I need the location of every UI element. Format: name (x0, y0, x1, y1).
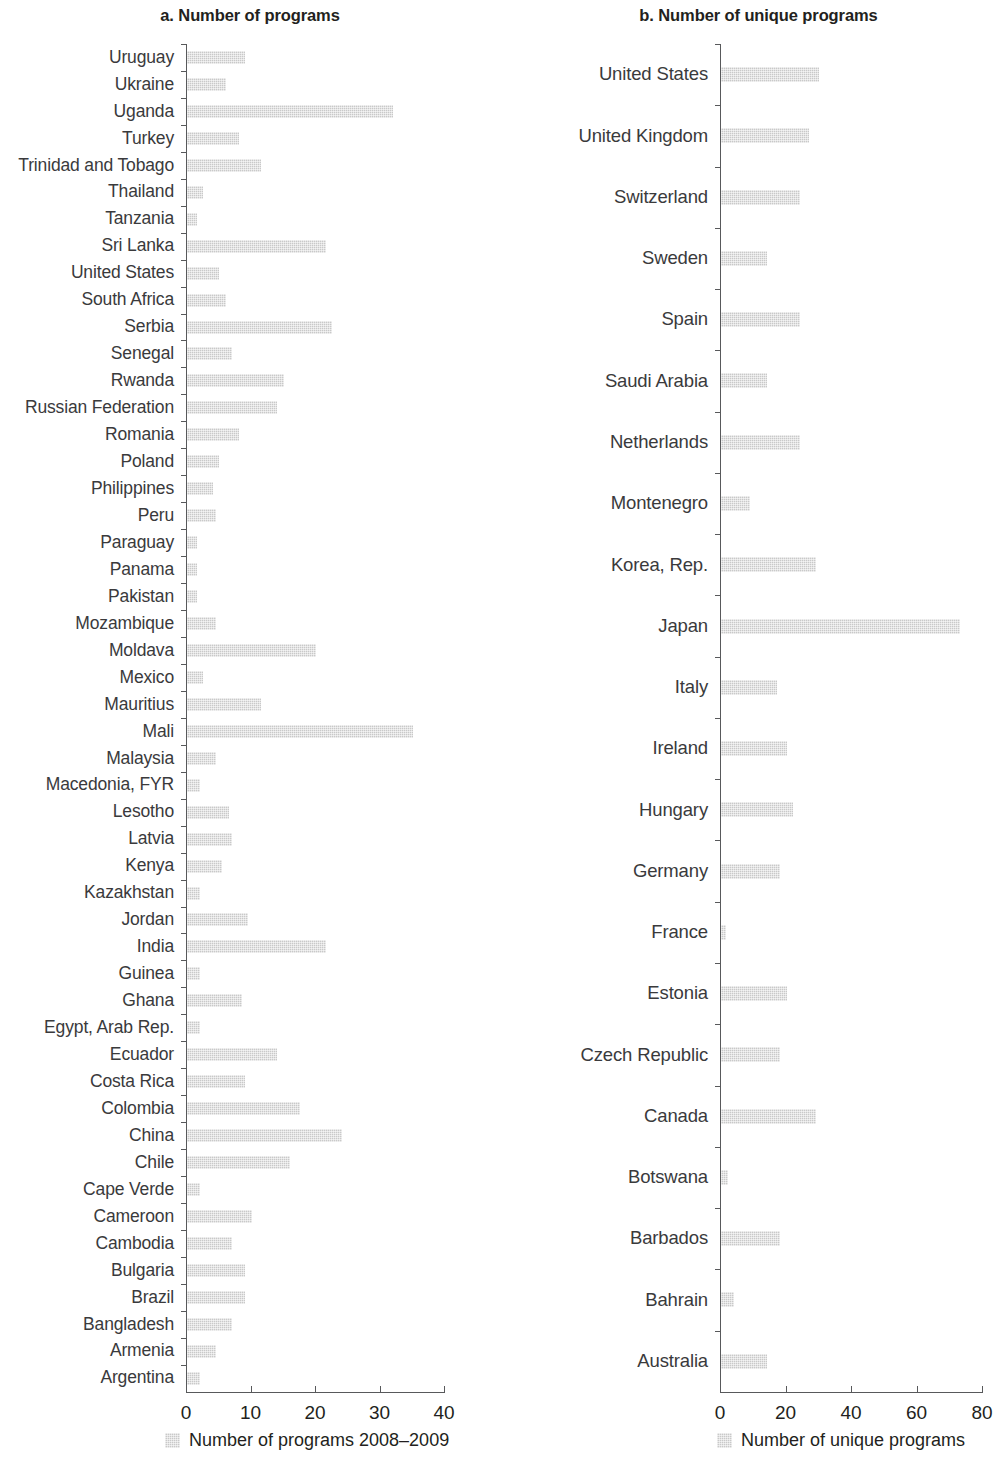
bar (721, 1231, 780, 1246)
bar-row (187, 718, 445, 745)
category-tick (715, 595, 721, 596)
bar (187, 482, 213, 495)
category-tick (181, 367, 187, 368)
bar (721, 1354, 767, 1369)
category-tick (181, 772, 187, 773)
category-label: Botswana (515, 1147, 714, 1208)
category-label: Tanzania (0, 206, 180, 233)
category-label: Latvia (0, 826, 180, 853)
category-label: Kazakhstan (0, 880, 180, 907)
bar-row (721, 902, 983, 963)
category-tick (715, 1208, 721, 1209)
category-tick (181, 1149, 187, 1150)
bar (187, 617, 216, 630)
category-label: Jordan (0, 907, 180, 934)
category-tick (715, 1331, 721, 1332)
value-axis-tick (186, 1386, 187, 1393)
panel-a-value-axis: 010203040 (186, 1392, 444, 1393)
bar-row (187, 1203, 445, 1230)
bar-row (721, 289, 983, 350)
value-axis-tick (851, 1386, 852, 1393)
bar-row (187, 826, 445, 853)
bar (187, 294, 226, 307)
category-tick (715, 963, 721, 964)
category-label: Chile (0, 1149, 180, 1176)
category-tick (181, 287, 187, 288)
category-label: Italy (515, 657, 714, 718)
category-tick (181, 1203, 187, 1204)
bar-row (187, 98, 445, 125)
bar-row (187, 1122, 445, 1149)
bar-row (187, 907, 445, 934)
bar-row (721, 1086, 983, 1147)
bar (187, 213, 197, 226)
category-label: Argentina (0, 1365, 180, 1392)
bar-row (187, 664, 445, 691)
bar-row (187, 287, 445, 314)
category-label: Rwanda (0, 367, 180, 394)
bar (187, 1264, 245, 1277)
category-tick (181, 718, 187, 719)
bar (187, 1048, 277, 1061)
bar (187, 833, 232, 846)
bar-row (721, 1331, 983, 1392)
category-tick (181, 98, 187, 99)
category-tick (181, 340, 187, 341)
bar-row (721, 473, 983, 534)
category-tick (715, 840, 721, 841)
bar-row (721, 350, 983, 411)
category-tick (181, 1365, 187, 1366)
category-tick (181, 1284, 187, 1285)
bar (187, 1372, 200, 1385)
panel-a-title: a. Number of programs (0, 6, 500, 25)
category-tick (715, 412, 721, 413)
bar-row (187, 394, 445, 421)
bar (187, 1318, 232, 1331)
bar-row (187, 1365, 445, 1392)
category-label: Romania (0, 421, 180, 448)
category-label: Russian Federation (0, 394, 180, 421)
bar-row (187, 475, 445, 502)
bar-row (187, 125, 445, 152)
category-tick (715, 1024, 721, 1025)
category-tick (181, 179, 187, 180)
bar-row (187, 853, 445, 880)
category-tick (715, 228, 721, 229)
bar (187, 105, 393, 118)
category-label: United Kingdom (515, 105, 714, 166)
bar (187, 1156, 290, 1169)
category-label: Montenegro (515, 473, 714, 534)
category-label: Guinea (0, 960, 180, 987)
value-axis-tick (982, 1386, 983, 1393)
bar (187, 563, 197, 576)
bar (187, 967, 200, 980)
value-axis-tick-label: 10 (240, 1402, 261, 1424)
category-label: Cape Verde (0, 1176, 180, 1203)
category-label: Canada (515, 1086, 714, 1147)
category-tick (181, 556, 187, 557)
category-label: Mali (0, 718, 180, 745)
category-tick (181, 529, 187, 530)
category-label: Cambodia (0, 1230, 180, 1257)
category-tick (715, 902, 721, 903)
bar (721, 373, 767, 388)
category-tick (715, 1086, 721, 1087)
category-tick (181, 1041, 187, 1042)
category-label: Serbia (0, 314, 180, 341)
bar-row (187, 880, 445, 907)
category-label: Uganda (0, 98, 180, 125)
bar (187, 1345, 216, 1358)
value-axis-tick (380, 1386, 381, 1393)
category-label: Germany (515, 840, 714, 901)
category-label: Czech Republic (515, 1024, 714, 1085)
category-tick (181, 314, 187, 315)
category-tick (181, 206, 187, 207)
bar (187, 752, 216, 765)
category-tick (715, 289, 721, 290)
category-label: Trinidad and Tobago (0, 152, 180, 179)
category-label: Sri Lanka (0, 233, 180, 260)
bar (187, 806, 229, 819)
bar-row (187, 206, 445, 233)
bar (187, 455, 219, 468)
category-tick (181, 637, 187, 638)
